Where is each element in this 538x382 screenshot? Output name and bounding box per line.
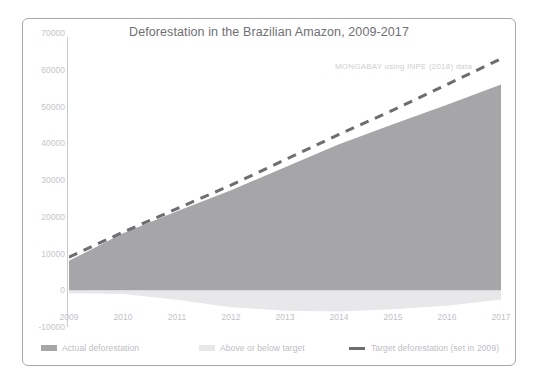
legend-item-target-deforestation: Target deforestation (set in 2009) — [349, 339, 499, 357]
y-axis: 700006000050000400003000020000100000-100… — [23, 33, 65, 327]
plot-area — [69, 33, 501, 327]
legend-label-target: Target deforestation (set in 2009) — [371, 343, 499, 353]
chart-legend: Actual deforestation Above or below targ… — [33, 339, 507, 357]
y-axis-tick-label: 0 — [60, 286, 65, 295]
legend-swatch-solid-icon — [41, 345, 57, 351]
screenshot-root: Deforestation in the Brazilian Amazon, 2… — [0, 0, 538, 382]
y-axis-tick-label: -10000 — [39, 323, 65, 332]
legend-item-above-below-target: Above or below target — [199, 339, 305, 357]
y-axis-tick-label: 60000 — [41, 66, 65, 75]
chart-card: Deforestation in the Brazilian Amazon, 2… — [22, 18, 516, 366]
legend-label-actual: Actual deforestation — [62, 343, 139, 353]
legend-swatch-dash-icon — [349, 347, 365, 350]
y-axis-line — [67, 37, 68, 327]
chart-svg — [69, 33, 501, 327]
legend-label-band: Above or below target — [220, 343, 305, 353]
legend-swatch-light-icon — [199, 345, 215, 351]
y-axis-tick-label: 50000 — [41, 103, 65, 112]
y-axis-tick-label: 20000 — [41, 213, 65, 222]
y-axis-tick-label: 10000 — [41, 250, 65, 259]
actual-deforestation-area — [69, 84, 501, 290]
y-axis-tick-label: 70000 — [41, 29, 65, 38]
legend-item-actual-deforestation: Actual deforestation — [41, 339, 139, 357]
y-axis-tick-label: 30000 — [41, 176, 65, 185]
above-below-target-band — [69, 290, 501, 311]
y-axis-tick-label: 40000 — [41, 139, 65, 148]
